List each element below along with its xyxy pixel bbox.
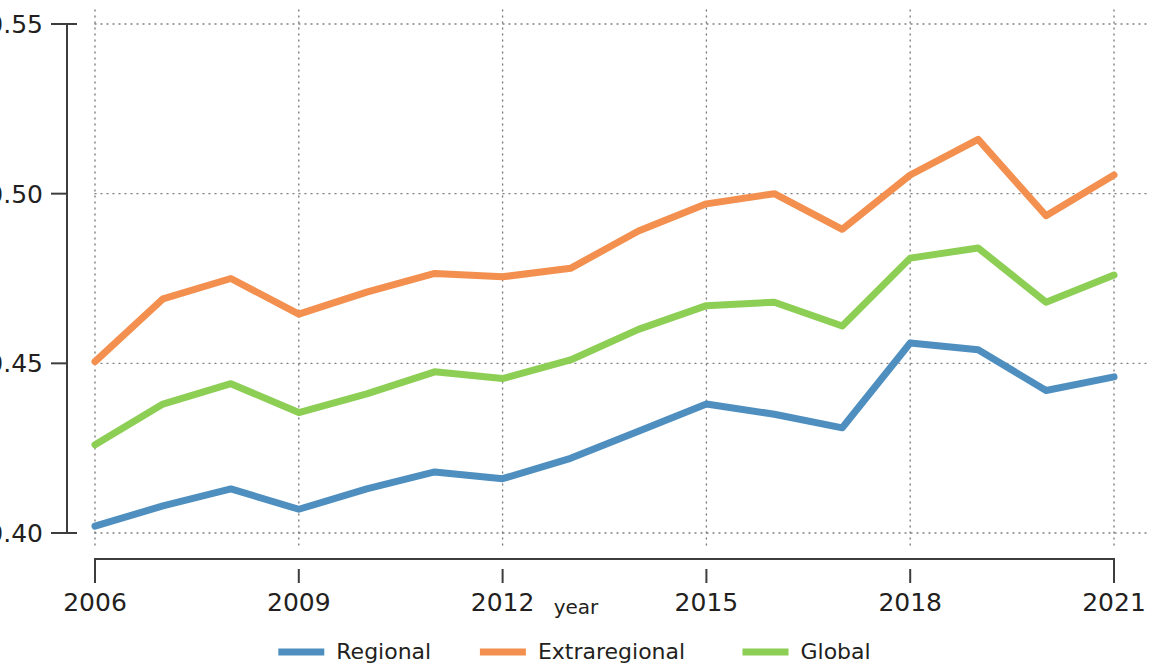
legend-item-extraregional[interactable]: Extraregional [480,639,685,664]
x-tick-label-2012: 2012 [471,588,535,617]
line-chart-figure: 0.400.450.500.55 20062009201220152018202… [0,0,1152,672]
y-tick-label-0.45: 0.45 [0,349,43,378]
axes [51,24,1114,583]
gridlines [95,10,1146,545]
chart-legend: RegionalExtraregionalGlobal [278,639,870,664]
x-tick-label-2006: 2006 [63,588,127,617]
x-tick-label-2021: 2021 [1082,588,1146,617]
chart-svg: 0.400.450.500.55 20062009201220152018202… [0,0,1152,672]
x-tick-label-2018: 2018 [878,588,942,617]
x-axis-title: year [554,595,599,619]
data-series [95,139,1114,526]
x-tick-label-2009: 2009 [267,588,331,617]
x-axis-spine [95,559,1114,569]
y-axis-spine [67,24,77,533]
legend-label-extraregional: Extraregional [538,639,685,664]
y-tick-label-0.55: 0.55 [0,10,43,39]
legend-label-regional: Regional [336,639,431,664]
legend-label-global: Global [801,639,871,664]
legend-item-global[interactable]: Global [743,639,871,664]
y-axis-tick-labels: 0.400.450.500.55 [0,10,43,548]
legend-item-regional[interactable]: Regional [278,639,431,664]
series-line-regional [95,343,1114,526]
y-tick-label-0.40: 0.40 [0,519,43,548]
x-tick-label-2015: 2015 [675,588,739,617]
y-tick-label-0.50: 0.50 [0,180,43,209]
x-axis-tick-labels: 200620092012201520182021 [63,588,1146,617]
